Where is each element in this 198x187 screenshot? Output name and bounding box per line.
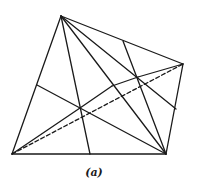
edge-line — [37, 85, 166, 154]
figure-caption: (a) — [0, 166, 188, 179]
solid-edges — [12, 16, 183, 154]
edge-line — [12, 108, 80, 154]
triangulation-diagram — [0, 0, 198, 187]
dashed-line — [12, 64, 183, 154]
dashed-diagonal — [12, 64, 183, 154]
edge-line — [166, 64, 183, 154]
edge-line — [138, 64, 183, 77]
edge-line — [123, 41, 166, 154]
edge-line — [112, 77, 138, 86]
edge-line — [80, 86, 112, 108]
